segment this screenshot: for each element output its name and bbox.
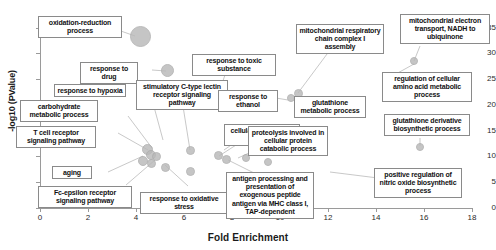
callout-aging[interactable]: aging xyxy=(52,166,92,179)
callout-response-to-toxic-substance[interactable]: response to toxic substance xyxy=(192,54,276,76)
bubble-oxidation-reduction-process[interactable] xyxy=(130,26,151,47)
callout-positive-regulation-of-nitric-oxide-biosynthetic-process[interactable]: positive regulation of nitric oxide bios… xyxy=(374,168,462,198)
callout-mitochondrial-respiratory-chain-complex-i-assembly[interactable]: mitochondrial respiratory chain complex … xyxy=(296,24,384,54)
bubble-cluster-extra[interactable] xyxy=(186,167,195,176)
callout-response-to-ethanol[interactable]: response to ethanol xyxy=(218,90,278,112)
bubble-response-to-drug[interactable] xyxy=(161,64,174,77)
callout-glutathione-derivative-biosynthetic-process[interactable]: glutathione derivative biosynthetic proc… xyxy=(384,114,470,136)
callout-stimulatory-c-type-lectin-receptor-signaling-pathway[interactable]: stimulatory C-type lectin receptor signa… xyxy=(136,80,228,110)
bubble-response-to-oxidative-stress[interactable] xyxy=(161,163,170,172)
callout-response-to-oxidative-stress[interactable]: response to oxidative stress xyxy=(140,192,228,214)
callout-glutathione-metabolic-process[interactable]: glutathione metabolic process xyxy=(294,96,366,118)
bubble-glutathione-derivative-biosynthetic-process[interactable] xyxy=(416,143,424,151)
callout-mitochondrial-electron-transport[interactable]: mitochondrial electron transport, NADH t… xyxy=(400,14,490,44)
bubble-stimulatory-c-type-lectin[interactable] xyxy=(186,146,195,155)
callout-regulation-of-cellular-amino-acid-metabolic-process[interactable]: regulation of cellular amino acid metabo… xyxy=(382,72,472,102)
callout-response-to-hypoxia[interactable]: response to hypoxia xyxy=(54,84,126,97)
callout-response-to-drug[interactable]: response to drug xyxy=(80,62,138,84)
bubble-fc-epsilon-receptor-signaling-pathway[interactable] xyxy=(152,152,161,161)
bubble-proteolysis-involved[interactable] xyxy=(222,155,231,164)
bubble-mitochondrial-electron-transport[interactable] xyxy=(410,57,418,65)
callout-t-cell-receptor-signaling-pathway[interactable]: T cell receptor signaling pathway xyxy=(16,126,96,148)
callout-proteolysis-involved-in-cellular-protein-catabolic-process[interactable]: proteolysis involved in cellular protein… xyxy=(248,126,328,156)
callout-oxidation-reduction-process[interactable]: oxidation-reduction process xyxy=(38,16,122,38)
leader-mito-resp-chain xyxy=(298,50,330,93)
callout-fc-epsilon-receptor-signaling-pathway[interactable]: Fc-epsilon receptor signaling pathway xyxy=(38,186,132,208)
callout-carbohydrate-metabolic-process[interactable]: carbohydrate metabolic process xyxy=(20,100,98,122)
callout-antigen-processing-presentation[interactable]: antigen processing and presentation of e… xyxy=(226,172,314,219)
bubble-positive-regulation-nitric-oxide[interactable] xyxy=(264,158,272,166)
go-enrichment-bubble-chart: 0 5 10 15 20 25 30 35 0 2 4 6 8 10 12 14… xyxy=(0,0,496,250)
leader-nitric-oxide xyxy=(330,172,378,178)
